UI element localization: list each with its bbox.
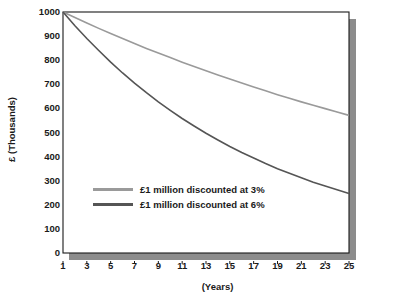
chart-legend: £1 million discounted at 3%£1 million di…: [93, 182, 293, 212]
x-axis-tick-label: 13: [193, 260, 219, 271]
x-axis-tick-label: 23: [312, 260, 338, 271]
x-axis-tick-label: 7: [122, 260, 148, 271]
x-axis-tick-label: 19: [265, 260, 291, 271]
legend-color-swatch: [93, 203, 133, 206]
x-axis-tick-label: 11: [169, 260, 195, 271]
plot-frame-shadow-right: [349, 19, 356, 260]
x-axis-tick-label: 15: [217, 260, 243, 271]
legend-item-label: £1 million discounted at 3%: [140, 184, 265, 195]
legend-item: £1 million discounted at 3%: [93, 182, 293, 197]
x-axis-tick-label: 1: [50, 260, 76, 271]
discount-line-chart: £ (Thousands) 01002003004005006007008009…: [0, 0, 399, 307]
legend-item: £1 million discounted at 6%: [93, 197, 293, 212]
x-axis-title: (Years): [202, 281, 234, 292]
x-axis-tick-label: 3: [74, 260, 100, 271]
x-axis-tick-label: 5: [98, 260, 124, 271]
x-axis-title-wrap: (Years): [0, 281, 399, 292]
x-axis-tick-label: 9: [145, 260, 171, 271]
legend-item-label: £1 million discounted at 6%: [140, 199, 265, 210]
x-axis-tick-labels: 135791113151719212325: [0, 258, 399, 274]
legend-color-swatch: [93, 188, 133, 191]
x-axis-tick-label: 25: [336, 260, 362, 271]
x-axis-tick-label: 21: [288, 260, 314, 271]
x-axis-tick-label: 17: [241, 260, 267, 271]
